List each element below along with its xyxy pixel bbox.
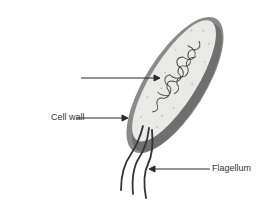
- bacterium-diagram: [0, 0, 265, 204]
- bacterium-cell: [108, 3, 242, 167]
- label-cell-wall: Cell wall: [51, 113, 85, 122]
- label-flagellum: Flagellum: [212, 164, 251, 173]
